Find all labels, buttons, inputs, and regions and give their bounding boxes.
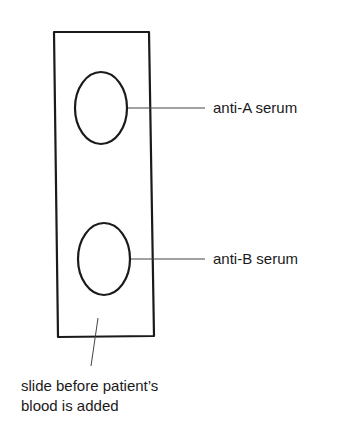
- anti-b-well: [78, 223, 130, 295]
- slide-leader-line: [91, 318, 98, 366]
- slide-diagram: [0, 0, 352, 432]
- anti-a-label: anti-A serum: [213, 98, 297, 117]
- glass-slide: [54, 32, 152, 120]
- anti-b-label: anti-B serum: [213, 249, 298, 268]
- glass-slide-outline: [54, 32, 154, 337]
- slide-caption-line1: slide before patient’s: [21, 376, 158, 395]
- anti-a-well: [75, 72, 127, 144]
- slide-caption-line2: blood is added: [21, 396, 119, 415]
